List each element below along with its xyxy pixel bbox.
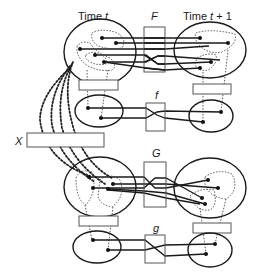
state-point (226, 41, 230, 45)
state-point (78, 47, 82, 51)
label-G: G (152, 147, 161, 159)
state-space-t1-large-F (174, 22, 246, 78)
state-space-t-large-F (64, 19, 136, 85)
state-space-t-coarse-f (75, 95, 123, 127)
state-point (93, 53, 97, 57)
label-f: f (155, 89, 159, 101)
coarse-graining-box-t1 (193, 84, 231, 94)
label-time-t-plus-1: Time t + 1 (183, 10, 232, 22)
state-space-t-coarse-g (73, 231, 121, 263)
wire (104, 56, 220, 62)
coarse-graining-box-t (79, 80, 118, 90)
causal-diagram: Time t F Time t + 1 (0, 0, 258, 277)
row-f: f (75, 89, 233, 132)
state-space-t1-coarse-f (189, 100, 233, 132)
coarse-graining-box-t1-lower (193, 223, 231, 233)
wire (108, 244, 215, 250)
label-time-t: Time t (78, 10, 109, 22)
state-point (209, 60, 213, 64)
state-space-t1-coarse-g (188, 233, 232, 267)
state-point (114, 41, 118, 45)
state-point (198, 66, 202, 70)
X-box (27, 133, 104, 147)
row-G: G (64, 147, 246, 218)
state-space-t-large-G (64, 157, 136, 217)
label-g: g (153, 222, 160, 234)
state-point (102, 60, 106, 64)
label-X: X (14, 135, 23, 147)
row-F (64, 19, 246, 85)
state-point (100, 36, 104, 40)
label-F: F (151, 10, 159, 22)
coarse-graining-box-t-lower (79, 216, 118, 226)
state-point (198, 36, 202, 40)
